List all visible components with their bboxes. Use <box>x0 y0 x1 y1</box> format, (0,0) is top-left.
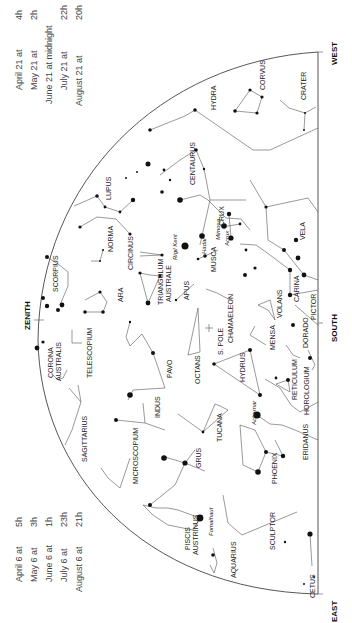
star-label-mimosa: Mimosa <box>215 218 221 240</box>
label-volans: VOLANS <box>276 289 283 318</box>
label-dorado: DORADO <box>302 317 309 348</box>
time-row: April 21 at <box>14 49 24 90</box>
label-horologium: HOROLOGIUM <box>303 366 310 415</box>
star-label-acrux: Acrux <box>224 230 230 247</box>
label-scorpius: SCORPIUS <box>52 255 59 292</box>
label-octans: OCTANS <box>194 355 201 384</box>
label-musca: MUSCA <box>210 246 217 272</box>
star-label-hadar: Hadar <box>201 237 207 254</box>
star-label-fomalhaut: Fomalhaut <box>208 507 214 536</box>
label-telescopium: TELESCOPIUM <box>86 328 93 378</box>
time-row-hour: 5h <box>14 517 24 527</box>
direction-east: EAST <box>330 601 339 622</box>
south-pole-label: S. POLE <box>217 327 224 355</box>
label-carina: CARINA <box>293 275 300 302</box>
label-hydrus: HYDRUS <box>239 352 246 382</box>
label-corona: CORONA <box>47 347 54 378</box>
time-row: July 6 at <box>59 548 69 582</box>
label-triangulum: TRIANGULUM <box>157 259 164 305</box>
label-norma: NORMA <box>107 226 114 252</box>
label-austrinus: AUSTRINUS <box>192 514 199 555</box>
label-centaurus: CENTAURUS <box>189 142 196 185</box>
time-table-bottom: April 6 at 5h May 6 at 3h June 6 at 1h J… <box>14 512 84 592</box>
star-chart: April 21 at 4h May 21 at 2h June 21 at m… <box>0 0 352 623</box>
label-vela: VELA <box>299 222 306 240</box>
time-row: June 21 at midnight <box>44 25 54 104</box>
time-row: June 6 at <box>44 544 54 582</box>
label-pictor: PICTOR <box>310 294 317 320</box>
label-reticulum: RETICULUM <box>291 359 298 400</box>
label-chamaeleon: CHAMAELEON <box>227 294 234 343</box>
time-row-hour: 3h <box>29 517 39 527</box>
label-indus: INDUS <box>154 396 161 418</box>
time-row-hour: 23h <box>59 512 69 527</box>
label-phoenix: PHOENIX <box>271 452 278 484</box>
time-row-hour: 4h <box>14 10 24 20</box>
star-label-achernar: Achernar <box>251 400 257 426</box>
label-cetus: CETUS <box>309 574 316 598</box>
time-row: August 21 at <box>74 55 84 106</box>
time-row-hour: 20h <box>74 5 84 20</box>
time-row-hour: 2h <box>29 10 39 20</box>
label-apus: APUS <box>183 281 190 300</box>
label-ara: ARA <box>117 287 124 302</box>
label-pavo: PAVO <box>166 359 173 378</box>
label-australis: AUSTRALIS <box>55 342 62 381</box>
label-hydra: HYDRA <box>210 85 217 110</box>
label-tucana: TUCANA <box>216 413 223 442</box>
label-crater: CRATER <box>300 72 307 100</box>
time-row-hour: 1h <box>44 517 54 527</box>
time-table-top: April 21 at 4h May 21 at 2h June 21 at m… <box>14 5 84 106</box>
label-lupus: LUPUS <box>105 176 112 200</box>
label-grus: GRUS <box>195 447 202 468</box>
direction-south: SOUTH <box>330 314 339 342</box>
label-piscis: PISCIS <box>184 527 191 550</box>
time-row: May 21 at <box>29 50 39 90</box>
time-row: August 6 at <box>74 546 84 592</box>
time-row: July 21 at <box>59 51 69 90</box>
label-corvus: CORVUS <box>259 60 266 90</box>
label-sagittarius: SAGITTARIUS <box>81 416 88 462</box>
constellation-labels: HYDRA CORVUS CRATER CENTAURUS LUPUS NORM… <box>47 60 317 598</box>
label-eridanus: ERIDANUS <box>302 423 309 460</box>
star-label-rigil-kent: Rigil Kent <box>172 234 178 260</box>
label-australe: AUSTRALE <box>165 265 172 302</box>
time-row: May 6 at <box>29 547 39 582</box>
label-microscopium: MICROSCOPIUM <box>132 428 139 484</box>
label-aquarius: AQUARIUS <box>230 541 238 578</box>
time-row-hour: 21h <box>74 512 84 527</box>
time-row: April 6 at <box>14 546 24 582</box>
direction-west: WEST <box>330 42 339 65</box>
south-pole-marker <box>205 324 213 332</box>
time-row-hour: 22h <box>59 5 69 20</box>
label-sculptor: SCULPTOR <box>269 512 276 550</box>
label-mensa: MENSA <box>269 325 276 350</box>
direction-zenith: ZENITH <box>23 301 32 330</box>
label-circinus: CIRCINUS <box>127 236 134 270</box>
